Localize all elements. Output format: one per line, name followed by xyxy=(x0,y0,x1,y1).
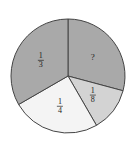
svg-text:1: 1 xyxy=(58,97,62,106)
svg-text:8: 8 xyxy=(91,95,95,104)
pie-slices xyxy=(11,19,125,133)
svg-text:1: 1 xyxy=(91,86,95,95)
slice-label-unknown: ? xyxy=(91,52,95,62)
svg-text:3: 3 xyxy=(39,60,43,69)
pie-chart: ?181413 xyxy=(0,0,129,144)
svg-text:4: 4 xyxy=(58,106,62,115)
svg-text:1: 1 xyxy=(39,51,43,60)
